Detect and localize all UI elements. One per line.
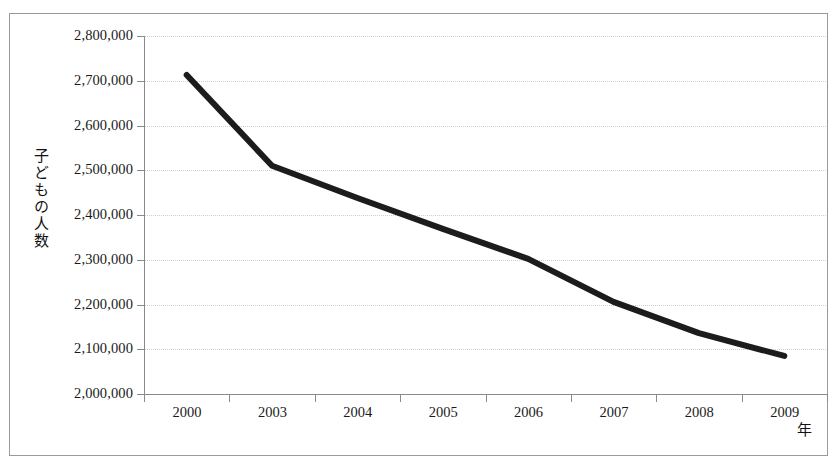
x-axis-title: 年 [797, 418, 812, 439]
y-tick-mark [137, 349, 144, 350]
y-tick-mark [137, 305, 144, 306]
x-tick-label-2006: 2006 [486, 404, 572, 421]
y-tick-mark [137, 394, 144, 395]
x-tick-mark [656, 394, 657, 402]
x-tick-mark [315, 394, 316, 402]
x-tick-label-2004: 2004 [315, 404, 401, 421]
gridline-2700000 [144, 81, 826, 82]
y-axis-title: 子どもの人数 [24, 148, 50, 250]
x-tick-label-2000: 2000 [144, 404, 230, 421]
y-tick-label: 2,700,000 [33, 72, 133, 89]
x-tick-mark [827, 394, 828, 402]
plot-area [144, 36, 826, 394]
y-tick-mark [137, 215, 144, 216]
gridline-2100000 [144, 349, 826, 350]
x-tick-label-2005: 2005 [400, 404, 486, 421]
y-tick-label: 2,600,000 [33, 117, 133, 134]
x-tick-label-2008: 2008 [656, 404, 742, 421]
gridline-2300000 [144, 260, 826, 261]
y-tick-mark [137, 260, 144, 261]
y-tick-label: 2,100,000 [33, 340, 133, 357]
gridline-2200000 [144, 305, 826, 306]
x-tick-mark [486, 394, 487, 402]
x-tick-mark [571, 394, 572, 402]
y-tick-mark [137, 36, 144, 37]
y-tick-label: 2,200,000 [33, 296, 133, 313]
x-tick-label-2003: 2003 [229, 404, 315, 421]
gridline-2800000 [144, 36, 826, 37]
gridline-2500000 [144, 170, 826, 171]
y-tick-label: 2,800,000 [33, 27, 133, 44]
x-tick-mark [229, 394, 230, 402]
x-tick-mark [742, 394, 743, 402]
x-tick-mark [400, 394, 401, 402]
y-tick-mark [137, 126, 144, 127]
y-tick-mark [137, 81, 144, 82]
x-tick-label-2009: 2009 [742, 404, 828, 421]
y-tick-label: 2,300,000 [33, 251, 133, 268]
x-tick-label-2007: 2007 [571, 404, 657, 421]
chart-figure: 2,800,000 2,700,000 2,600,000 2,500,000 … [0, 0, 837, 472]
y-tick-label: 2,000,000 [33, 385, 133, 402]
gridline-2600000 [144, 126, 826, 127]
x-tick-mark [144, 394, 145, 402]
y-axis-line [144, 36, 145, 394]
y-tick-mark [137, 170, 144, 171]
gridline-2400000 [144, 215, 826, 216]
